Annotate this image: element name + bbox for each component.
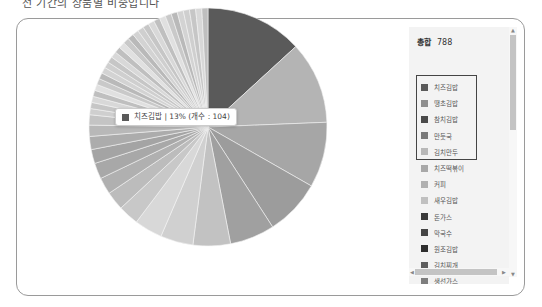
pie-slices[interactable] [89, 8, 327, 246]
legend-item[interactable]: 치즈김밥 [421, 79, 470, 95]
legend-swatch [421, 148, 428, 155]
legend-swatch [421, 197, 428, 204]
legend-swatch [421, 132, 428, 139]
legend-vertical-scrollbar[interactable]: ▲ ▼ [509, 27, 517, 277]
legend-item-label: 치즈김밥 [434, 82, 458, 92]
scroll-down-arrow-icon[interactable]: ▼ [510, 271, 516, 277]
legend-item[interactable]: 새우김밥 [421, 192, 470, 208]
legend-swatch [421, 165, 428, 172]
slice-tooltip: 치즈김밥 | 13% (개수 : 104) [115, 108, 237, 126]
legend-item[interactable]: 참치김밥 [421, 111, 470, 127]
legend-item-label: 새우김밥 [434, 195, 458, 205]
legend-total-label: 총합 [417, 38, 431, 47]
legend-item-label: 김치만두 [434, 147, 458, 157]
legend-item-label: 원조김밥 [434, 244, 458, 254]
scroll-thumb-horizontal[interactable] [415, 269, 497, 275]
legend-swatch [421, 100, 428, 107]
tooltip-text: 치즈김밥 | 13% (개수 : 104) [134, 109, 230, 125]
legend-item[interactable]: 커피 [421, 176, 470, 192]
legend-item-label: 막국수 [434, 228, 452, 238]
legend-swatch [421, 229, 428, 236]
legend-item[interactable]: 치즈떡볶이 [421, 160, 470, 176]
legend-item[interactable]: 돈가스 [421, 209, 470, 225]
legend-list: 치즈김밥땡초김밥참치김밥만둣국김치만두치즈떡볶이커피새우김밥돈가스막국수원조김밥… [421, 79, 470, 284]
legend-swatch [421, 116, 428, 123]
tooltip-swatch [122, 114, 129, 121]
legend-item-label: 생선가스 [434, 276, 458, 284]
scroll-right-arrow-icon[interactable]: ▶ [501, 268, 507, 276]
legend-item-label: 땡초김밥 [434, 98, 458, 108]
legend-item-label: 커피 [434, 179, 446, 189]
chart-legend: 총합788 치즈김밥땡초김밥참치김밥만둣국김치만두치즈떡볶이커피새우김밥돈가스막… [409, 27, 509, 284]
legend-swatch [421, 84, 428, 91]
legend-item[interactable]: 만둣국 [421, 128, 470, 144]
legend-item[interactable]: 땡초김밥 [421, 95, 470, 111]
scroll-thumb[interactable] [510, 35, 516, 130]
legend-item-label: 치즈떡볶이 [434, 163, 464, 173]
legend-item-label: 돈가스 [434, 212, 452, 222]
legend-item-label: 만둣국 [434, 131, 452, 141]
scroll-up-arrow-icon[interactable]: ▲ [510, 27, 516, 33]
legend-total: 총합788 [417, 36, 452, 47]
legend-swatch [421, 213, 428, 220]
legend-item[interactable]: 막국수 [421, 225, 470, 241]
legend-item-label: 참치김밥 [434, 114, 458, 124]
legend-total-value: 788 [437, 38, 452, 47]
legend-swatch [421, 181, 428, 188]
legend-swatch [421, 278, 428, 284]
legend-item[interactable]: 김치만두 [421, 144, 470, 160]
legend-horizontal-scrollbar[interactable]: ◀ ▶ [409, 268, 509, 276]
legend-swatch [421, 245, 428, 252]
legend-item[interactable]: 원조김밥 [421, 241, 470, 257]
